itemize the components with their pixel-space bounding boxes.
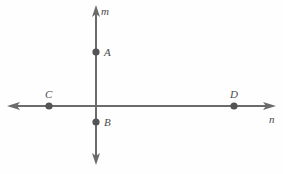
figure-canvas: m n A B C D	[0, 0, 283, 174]
point-c-dot	[45, 102, 52, 109]
point-d-label: D	[229, 88, 238, 100]
geometry-figure: m n A B C D	[0, 0, 283, 174]
line-n-label: n	[269, 113, 275, 125]
point-a-label: A	[103, 46, 111, 58]
point-c: C	[45, 88, 53, 110]
point-a-dot	[92, 48, 99, 55]
line-m-label: m	[101, 5, 109, 17]
point-b-label: B	[104, 116, 111, 128]
point-d-dot	[230, 102, 237, 109]
point-b-dot	[92, 118, 99, 125]
point-c-label: C	[45, 88, 53, 100]
line-m: m	[92, 5, 109, 165]
